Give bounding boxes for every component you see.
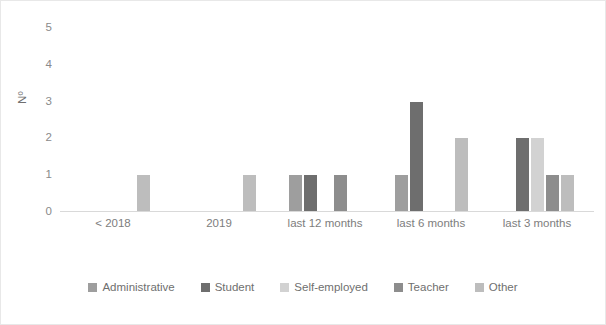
- legend-label: Self-employed: [294, 281, 368, 293]
- bar-slot: [501, 28, 514, 212]
- x-axis-category-labels: < 20182019last 12 monthslast 6 monthslas…: [60, 216, 590, 230]
- legend-label: Other: [489, 281, 518, 293]
- bar-slot: [531, 28, 544, 212]
- bar-teacher: [546, 175, 559, 212]
- bar-slot: [425, 28, 438, 212]
- legend-swatch-administrative: [88, 283, 97, 292]
- y-axis-title: Nº: [16, 91, 28, 104]
- bar-slot: [122, 28, 135, 212]
- bar-slot: [334, 28, 347, 212]
- bar-slot: [440, 28, 453, 212]
- legend-item[interactable]: Teacher: [394, 281, 449, 293]
- x-axis-category-label: 2019: [166, 216, 272, 230]
- bar-administrative: [289, 175, 302, 212]
- bar-slot: [213, 28, 226, 212]
- bar-slot: [304, 28, 317, 212]
- bar-student: [516, 138, 529, 212]
- legend-swatch-self-employed: [280, 283, 289, 292]
- y-axis-tick-label: 1: [46, 169, 52, 181]
- bar-other: [137, 175, 150, 212]
- y-axis-tick-label: 2: [46, 133, 52, 145]
- bar-student: [410, 102, 423, 212]
- bar-slot: [137, 28, 150, 212]
- bar-slot: [198, 28, 211, 212]
- legend-item[interactable]: Self-employed: [280, 281, 368, 293]
- legend-item[interactable]: Administrative: [88, 281, 174, 293]
- bar-slot: [546, 28, 559, 212]
- bar-group: [272, 28, 378, 212]
- y-axis-tick-label: 0: [46, 206, 52, 218]
- bar-other: [243, 175, 256, 212]
- x-axis-category-label: < 2018: [60, 216, 166, 230]
- x-axis-line: [60, 211, 594, 212]
- bar-group: [378, 28, 484, 212]
- legend-label: Student: [215, 281, 255, 293]
- bar-student: [304, 175, 317, 212]
- x-axis-category-label: last 3 months: [484, 216, 590, 230]
- bar-slot: [92, 28, 105, 212]
- x-axis-category-label: last 6 months: [378, 216, 484, 230]
- bar-slot: [289, 28, 302, 212]
- bar-slot: [349, 28, 362, 212]
- bar-slot: [395, 28, 408, 212]
- bar-group: [166, 28, 272, 212]
- bar-slot: [561, 28, 574, 212]
- bar-slot: [243, 28, 256, 212]
- legend-label: Teacher: [408, 281, 449, 293]
- y-axis-tick-label: 4: [46, 59, 52, 71]
- legend-swatch-other: [475, 283, 484, 292]
- bar-slot: [228, 28, 241, 212]
- x-axis-category-label: last 12 months: [272, 216, 378, 230]
- bar-slot: [410, 28, 423, 212]
- bar-slot: [319, 28, 332, 212]
- bar-other: [561, 175, 574, 212]
- legend-swatch-teacher: [394, 283, 403, 292]
- legend-label: Administrative: [102, 281, 174, 293]
- legend-item[interactable]: Student: [201, 281, 255, 293]
- bar-group: [484, 28, 590, 212]
- y-axis-tick-label: 5: [46, 22, 52, 34]
- y-axis-tick-label: 3: [46, 96, 52, 108]
- bar-administrative: [395, 175, 408, 212]
- bar-chart: Nº 012345 < 20182019last 12 monthslast 6…: [0, 0, 606, 325]
- bar-group: [60, 28, 166, 212]
- bar-teacher: [334, 175, 347, 212]
- bar-slot: [455, 28, 468, 212]
- plot-area: 012345: [60, 28, 590, 212]
- chart-legend: AdministrativeStudentSelf-employedTeache…: [0, 281, 606, 293]
- bar-other: [455, 138, 468, 212]
- bar-slot: [516, 28, 529, 212]
- bar-self-employed: [531, 138, 544, 212]
- legend-item[interactable]: Other: [475, 281, 518, 293]
- bar-groups: [60, 28, 590, 212]
- legend-swatch-student: [201, 283, 210, 292]
- bar-slot: [77, 28, 90, 212]
- bar-slot: [183, 28, 196, 212]
- bar-slot: [107, 28, 120, 212]
